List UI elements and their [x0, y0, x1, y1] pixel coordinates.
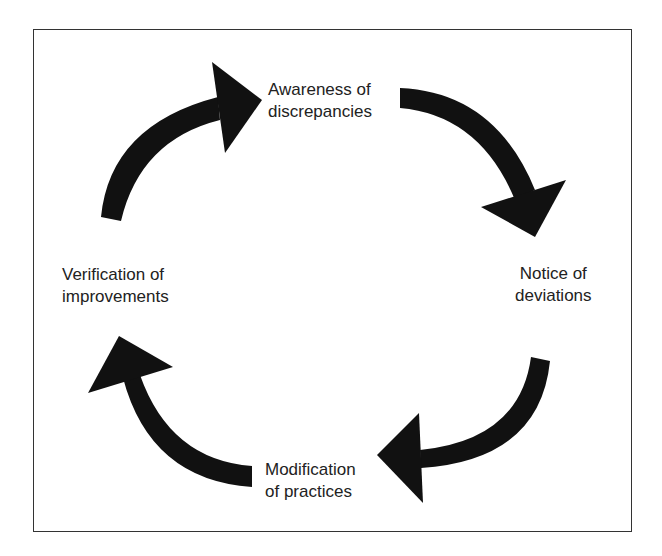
arrow-notice-to-modification-icon [377, 357, 550, 503]
stage-label-line2: improvements [62, 286, 169, 308]
arrow-verification-to-awareness-icon [101, 62, 262, 221]
stage-label-notice: Notice of deviations [515, 263, 592, 307]
stage-label-line1: Awareness of [268, 79, 372, 101]
arrow-awareness-to-notice-icon [400, 88, 566, 237]
stage-label-verification: Verification of improvements [62, 264, 169, 308]
stage-label-line1: Verification of [62, 264, 169, 286]
stage-label-line1: Modification [265, 459, 356, 481]
stage-label-line2: deviations [515, 285, 592, 307]
stage-label-line1: Notice of [515, 263, 592, 285]
arrow-modification-to-verification-icon [88, 336, 252, 487]
stage-label-modification: Modification of practices [265, 459, 356, 503]
stage-label-awareness: Awareness of discrepancies [268, 79, 372, 123]
stage-label-line2: discrepancies [268, 101, 372, 123]
stage-label-line2: of practices [265, 481, 356, 503]
